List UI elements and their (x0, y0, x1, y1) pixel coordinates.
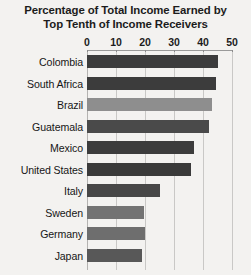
category-label-mexico: Mexico (0, 142, 83, 154)
x-axis-tick-labels: 01020304050 (87, 36, 232, 50)
category-label-brazil: Brazil (0, 99, 83, 111)
bar-row (87, 163, 232, 176)
x-tick-label-50: 50 (226, 36, 238, 48)
bar-row (87, 249, 232, 262)
bar-sweden (87, 206, 144, 219)
bar-colombia (87, 55, 218, 68)
bar-chart: Percentage of Total Income Earned by Top… (0, 0, 251, 275)
x-tick-label-0: 0 (84, 36, 90, 48)
chart-title-line-1: Percentage of Total Income Earned by (0, 3, 251, 17)
category-label-germany: Germany (0, 228, 83, 240)
x-tick-label-30: 30 (168, 36, 180, 48)
category-label-sweden: Sweden (0, 207, 83, 219)
plot-area (87, 52, 232, 270)
bar-row (87, 55, 232, 68)
x-tick-label-20: 20 (139, 36, 151, 48)
bar-row (87, 227, 232, 240)
category-label-guatemala: Guatemala (0, 121, 83, 133)
x-tick-label-10: 10 (110, 36, 122, 48)
category-label-united-states: United States (0, 164, 83, 176)
bar-row (87, 98, 232, 111)
bar-japan (87, 249, 142, 262)
chart-title: Percentage of Total Income Earned by Top… (0, 3, 251, 31)
bar-row (87, 184, 232, 197)
bar-row (87, 77, 232, 90)
category-label-colombia: Colombia (0, 56, 83, 68)
bar-united-states (87, 163, 191, 176)
bar-south-africa (87, 77, 216, 90)
bar-row (87, 206, 232, 219)
chart-title-line-2: Top Tenth of Income Receivers (0, 17, 251, 31)
bar-brazil (87, 98, 212, 111)
x-axis-line (87, 50, 232, 51)
bar-italy (87, 184, 160, 197)
category-label-japan: Japan (0, 250, 83, 262)
category-label-italy: Italy (0, 185, 83, 197)
gridline-50 (232, 52, 233, 270)
bar-row (87, 141, 232, 154)
bar-guatemala (87, 120, 209, 133)
x-tick-label-40: 40 (197, 36, 209, 48)
category-label-south-africa: South Africa (0, 78, 83, 90)
bar-mexico (87, 141, 194, 154)
bar-germany (87, 227, 145, 240)
bar-row (87, 120, 232, 133)
